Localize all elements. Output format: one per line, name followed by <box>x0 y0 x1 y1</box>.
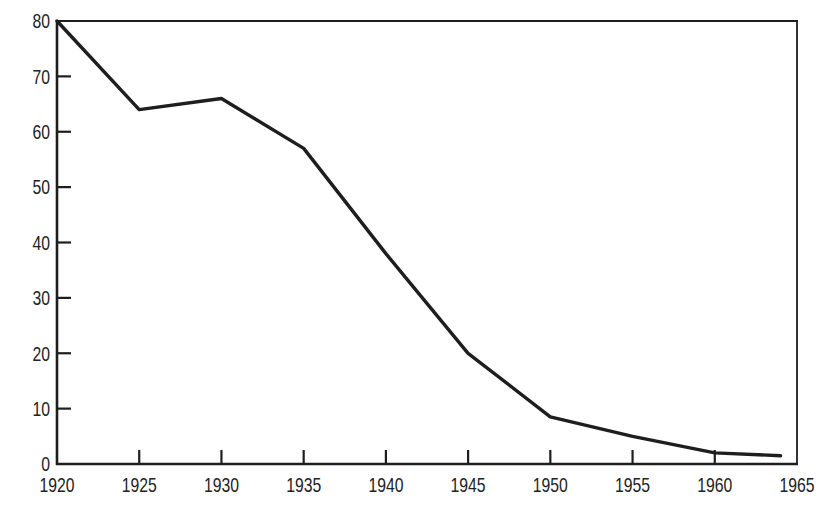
y-tick-label: 20 <box>32 341 50 365</box>
chart-background <box>0 0 831 515</box>
x-tick-label: 1945 <box>451 473 486 497</box>
x-tick-label: 1920 <box>39 473 74 497</box>
y-tick-label: 80 <box>32 9 50 33</box>
x-tick-label: 1950 <box>533 473 568 497</box>
x-tick-label: 1935 <box>286 473 321 497</box>
x-tick-label: 1960 <box>697 473 732 497</box>
x-tick-label: 1930 <box>204 473 239 497</box>
x-tick-label: 1940 <box>368 473 403 497</box>
line-chart: 0102030405060708019201925193019351940194… <box>0 0 831 515</box>
x-tick-label: 1955 <box>615 473 650 497</box>
x-tick-label: 1965 <box>779 473 814 497</box>
y-tick-label: 40 <box>32 231 50 255</box>
y-tick-label: 30 <box>32 286 50 310</box>
chart-page: 0102030405060708019201925193019351940194… <box>0 0 831 515</box>
y-tick-label: 60 <box>32 120 50 144</box>
y-tick-label: 70 <box>32 64 50 88</box>
y-tick-label: 50 <box>32 175 50 199</box>
y-tick-label: 10 <box>32 397 50 421</box>
x-tick-label: 1925 <box>122 473 157 497</box>
